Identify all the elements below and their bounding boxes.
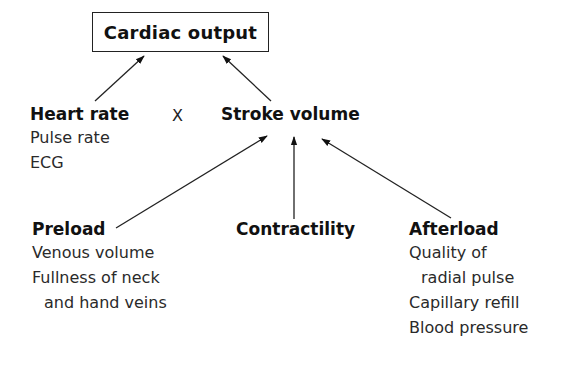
preload-indicator: Fullness of neck [32, 265, 160, 290]
stroke-volume-label: Stroke volume [221, 104, 360, 124]
afterload-indicator: Capillary refill [409, 290, 519, 315]
cardiac-output-label: Cardiac output [104, 22, 257, 43]
arrow-preload-to-stroke-volume [116, 136, 267, 228]
contractility-label: Contractility [236, 219, 355, 239]
arrow-heart-rate-to-cardiac-output [95, 56, 144, 101]
afterload-indicator: Blood pressure [409, 315, 528, 340]
preload-label: Preload [32, 219, 106, 239]
afterload-label: Afterload [409, 219, 499, 239]
heart-rate-label: Heart rate [30, 104, 129, 124]
preload-indicator: Venous volume [32, 240, 154, 265]
cardiac-output-box: Cardiac output [92, 12, 269, 52]
afterload-indicator: radial pulse [421, 265, 514, 290]
arrow-afterload-to-stroke-volume [322, 139, 451, 218]
multiply-operator: X [172, 106, 183, 125]
preload-indicator: and hand veins [44, 290, 167, 315]
heart-rate-indicator: Pulse rate [30, 125, 110, 150]
arrow-stroke-volume-to-cardiac-output [223, 56, 271, 101]
afterload-indicator: Quality of [409, 240, 487, 265]
heart-rate-indicator: ECG [30, 150, 64, 175]
